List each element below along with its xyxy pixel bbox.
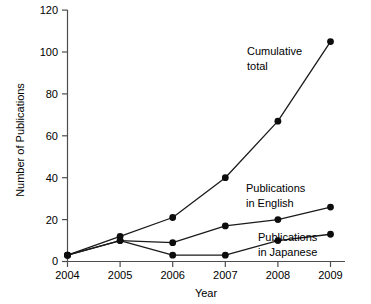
y-tick-label-80: 80 [46,88,58,100]
data-point [117,237,124,244]
data-point [64,252,71,259]
data-point [222,222,229,229]
annotation-cumulative-total-line1: Cumulative [247,45,302,57]
y-tick-label-0: 0 [52,255,58,267]
data-point [327,231,334,238]
annotation-publications-in-english-line2: in English [246,197,294,209]
x-tick-label-2008: 2008 [266,269,290,281]
annotation-cumulative-total-line2: total [247,60,268,72]
y-tick-label-60: 60 [46,130,58,142]
y-tick-label-100: 100 [40,46,58,58]
y-tick-label-20: 20 [46,214,58,226]
y-axis-title: Number of Publications [14,83,26,197]
data-point [275,118,282,125]
y-tick-label-40: 40 [46,172,58,184]
data-point [169,214,176,221]
publications-line-chart: 0 20 40 60 80 100 120 Number of Publicat… [0,0,371,304]
data-point [222,252,229,259]
data-point [169,252,176,259]
data-point [275,216,282,223]
x-tick-label-2006: 2006 [160,269,184,281]
data-point [169,239,176,246]
data-point [222,174,229,181]
x-tick-label-2009: 2009 [318,269,342,281]
data-point [327,204,334,211]
data-point [327,38,334,45]
chart-canvas: 0 20 40 60 80 100 120 Number of Publicat… [0,0,371,304]
x-tick-label-2007: 2007 [213,269,237,281]
x-axis-title: Year [195,287,218,299]
y-tick-label-120: 120 [40,4,58,16]
annotation-publications-in-english-line1: Publications [246,182,306,194]
x-tick-label-2004: 2004 [55,269,79,281]
annotation-publications-in-japanese-line1: Publications [258,231,318,243]
annotation-publications-in-japanese-line2: in Japanese [258,246,317,258]
x-tick-label-2005: 2005 [108,269,132,281]
